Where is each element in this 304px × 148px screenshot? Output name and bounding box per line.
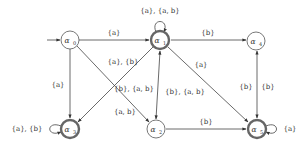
edge-label-a2-a5: {b} <box>199 118 212 126</box>
svg-text:α: α <box>154 36 159 45</box>
edge-label-a5-loop: {a} <box>283 125 296 133</box>
svg-text:1: 1 <box>163 40 166 46</box>
state-a0: α 0 <box>61 31 79 49</box>
svg-text:2: 2 <box>159 129 162 135</box>
svg-text:α: α <box>250 37 255 46</box>
svg-text:4: 4 <box>259 41 262 47</box>
edge-label-a4-a5-right: {b} <box>261 83 274 91</box>
svg-text:5: 5 <box>260 129 263 135</box>
svg-text:α: α <box>251 125 256 134</box>
edge-label-a1-loop: {a}, {a, b} <box>140 7 180 15</box>
state-a2: α 2 <box>147 120 165 138</box>
edge-label-a1-a2-right: {b}, {a, b} <box>165 88 205 96</box>
state-a1: α 1 <box>151 31 169 49</box>
edge-a1-a2 <box>156 51 160 119</box>
svg-text:α: α <box>64 125 69 134</box>
edge-a1-a5 <box>168 47 248 122</box>
edge-label-a0-a2: {a, b} <box>114 108 136 116</box>
automaton-diagram: {a} {a} {a, b} {a}, {b} {a}, {a, b} {b} … <box>0 0 304 148</box>
edge-label-a1-a5: {a} <box>194 61 207 69</box>
svg-text:α: α <box>150 125 155 134</box>
edge-a5-loop <box>266 125 277 133</box>
state-a3: α 3 <box>61 120 79 138</box>
edge-label-a0-a3: {a} <box>51 81 64 89</box>
edge-label-a4-a5-left: {b} <box>239 83 252 91</box>
edge-label-a0-a1: {a} <box>107 29 120 37</box>
edge-label-a1-a3: {a}, {b} <box>108 58 139 66</box>
edge-label-a3-loop: {a}, {b} <box>12 125 43 133</box>
edge-label-a1-a4: {b} <box>201 29 214 37</box>
svg-text:3: 3 <box>73 129 76 135</box>
svg-text:α: α <box>64 36 69 45</box>
svg-text:0: 0 <box>73 40 76 46</box>
edge-label-a1-a2-left: {b}, {a, b} <box>114 85 154 93</box>
state-a5: α 5 <box>248 120 266 138</box>
state-a4: α 4 <box>247 32 265 50</box>
edge-a3-loop <box>50 125 61 133</box>
